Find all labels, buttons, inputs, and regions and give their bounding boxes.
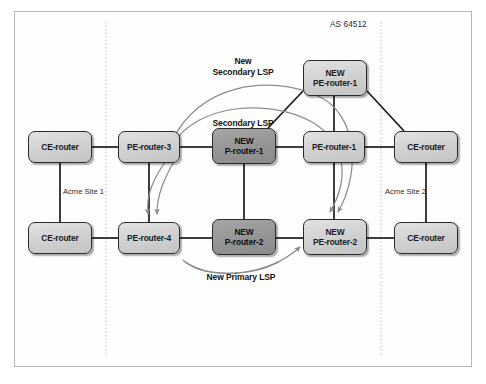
node-new-p-router-2[interactable]: NEW P-router-2	[212, 219, 276, 255]
node-new-p-router-1[interactable]: NEW P-router-1	[212, 128, 276, 164]
site-label-left: Acme Site 1	[63, 187, 104, 196]
label-secondary-lsp: Secondary LSP	[193, 118, 293, 129]
node-label-line1: CE-router	[41, 142, 78, 153]
node-label-line1: CE-router	[407, 233, 444, 244]
node-label-line2: P-router-1	[225, 146, 264, 157]
node-label-line2: P-router-2	[225, 237, 264, 248]
node-label-line2: PE-router-2	[313, 237, 357, 248]
node-label-line1: CE-router	[41, 233, 78, 244]
node-ce-left-bottom[interactable]: CE-router	[28, 222, 92, 254]
node-ce-right-bottom[interactable]: CE-router	[394, 222, 458, 254]
node-label-line1: PE-router-4	[127, 233, 171, 244]
node-label-line1: PE-router-1	[312, 142, 356, 153]
diagram-canvas: CE-router CE-router PE-router-3 PE-route…	[0, 0, 486, 384]
node-pe-router-1[interactable]: PE-router-1	[303, 131, 365, 163]
site-label-right: Acme Site 2	[385, 187, 426, 196]
node-label-line1: NEW	[234, 227, 253, 238]
node-pe-router-4[interactable]: PE-router-4	[118, 222, 180, 254]
node-label-line1: CE-router	[407, 142, 444, 153]
lsp-arc-new-primary-to-pe4-inner	[157, 158, 176, 214]
node-new-pe-router-1[interactable]: NEW PE-router-1	[303, 60, 367, 96]
node-label-line1: NEW	[325, 227, 344, 238]
node-pe-router-3[interactable]: PE-router-3	[118, 131, 180, 163]
node-label-line1: PE-router-3	[127, 142, 171, 153]
label-new-primary-lsp: New Primary LSP	[183, 272, 299, 283]
label-new-secondary-lsp-line1: New	[234, 56, 251, 66]
node-ce-right-top[interactable]: CE-router	[394, 131, 458, 163]
label-new-secondary-lsp-line2: Secondary LSP	[212, 67, 273, 77]
node-ce-left-top[interactable]: CE-router	[28, 131, 92, 163]
node-label-line2: PE-router-1	[313, 78, 357, 89]
node-label-line1: NEW	[234, 136, 253, 147]
node-new-pe-router-2[interactable]: NEW PE-router-2	[303, 219, 367, 255]
node-label-line1: NEW	[325, 68, 344, 79]
label-new-secondary-lsp: New Secondary LSP	[188, 56, 298, 77]
as-number-label: AS 64512	[330, 20, 367, 29]
